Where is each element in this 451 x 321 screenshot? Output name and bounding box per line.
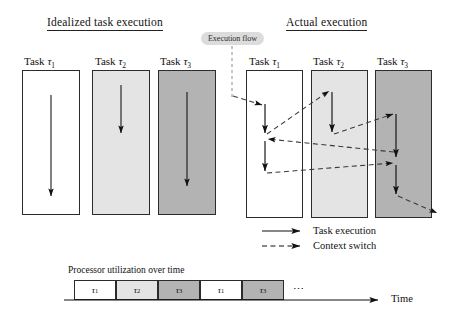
actual-task-word-3: Task [377,55,398,67]
heading-actual: Actual execution [286,16,367,31]
timeline-slot-index-3: 3 [179,287,182,294]
actual-task-word-2: Task [313,55,334,67]
execution-flow-callout: Execution flow [201,32,264,45]
timeline-slot-index-4: 1 [221,287,224,294]
timeline-axis-label: Time [391,293,413,304]
timeline-slot-2: τ2 [116,280,158,300]
actual-task-index-1: 1 [276,61,280,70]
idealized-task-word-1: Task [24,55,45,67]
legend-label-task-execution: Task execution [313,225,376,237]
timeline-slot-5: τ3 [242,280,284,300]
legend-label-context-switch: Context switch [313,240,376,252]
timeline-slot-3: τ3 [158,280,200,300]
actual-task-box-1 [246,70,303,218]
timeline-slot-index-5: 3 [263,287,266,294]
idealized-task-index-2: 2 [122,61,126,70]
idealized-task-box-2 [92,70,150,215]
actual-task-index-2: 2 [340,61,344,70]
figure-root: Idealized task execution Actual executio… [0,0,451,321]
actual-task-box-3 [375,70,432,218]
idealized-task-word-3: Task [160,55,181,67]
heading-idealized: Idealized task execution [47,16,163,31]
timeline-slot-index-1: 1 [95,287,98,294]
actual-task-word-1: Task [249,55,270,67]
actual-task-index-3: 3 [404,61,408,70]
timeline-slot-1: τ1 [74,280,116,300]
idealized-task-box-3 [158,70,216,215]
timeline-slot-index-2: 2 [137,287,140,294]
timeline-caption: Processor utilization over time [68,265,184,276]
idealized-task-index-1: 1 [51,61,55,70]
idealized-task-word-2: Task [95,55,116,67]
actual-task-box-2 [311,70,368,218]
timeline-ellipsis: ⋯ [293,284,304,294]
idealized-task-index-3: 3 [187,61,191,70]
timeline-slot-4: τ1 [200,280,242,300]
idealized-task-box-1 [22,70,80,215]
